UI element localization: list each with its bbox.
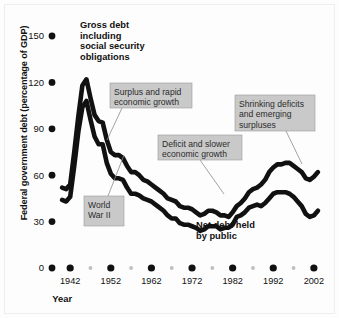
- annotation-line: including: [80, 31, 122, 41]
- callout-line: surpluses: [239, 120, 276, 130]
- x-tick-dot-minor: [129, 266, 133, 270]
- annotation-line: by public: [196, 231, 237, 241]
- callout-leader-shrinking-deficits: [286, 131, 302, 164]
- x-tick-dot-minor: [170, 266, 174, 270]
- callout-line: Surplus and rapid: [114, 87, 182, 97]
- y-tick-label: 120: [28, 77, 44, 88]
- callout-line: and emerging: [239, 109, 292, 119]
- y-tick-label: 0: [39, 262, 44, 273]
- callout-deficit-slower-growth: Deficit and slowereconomic growth: [158, 135, 242, 160]
- y-tick-dot: [49, 172, 56, 179]
- y-tick-label: 90: [33, 123, 44, 134]
- x-tick-dot: [188, 264, 195, 271]
- y-tick-label: 150: [28, 30, 44, 41]
- x-tick-label: 1942: [60, 276, 80, 286]
- x-tick-dot-minor: [210, 266, 214, 270]
- x-tick-label: 2002: [304, 276, 324, 286]
- callout-surplus-rapid-growth: Surplus and rapideconomic growth: [110, 83, 192, 108]
- callout-world-war-ii: WorldWar II: [84, 196, 124, 226]
- x-tick-dot: [229, 264, 236, 271]
- x-tick-dot: [107, 264, 114, 271]
- x-tick-dot-minor: [251, 266, 255, 270]
- callout-line: Deficit and slower: [162, 139, 230, 149]
- y-tick-label: 60: [33, 170, 44, 181]
- callout-shrinking-deficits: Shrinking deficitsand emergingsurpluses: [235, 95, 315, 131]
- callout-leader-deficit-slower-growth: [200, 160, 224, 194]
- chart-figure: Federal government debt (percentage of G…: [0, 0, 339, 318]
- annotation-line: obligations: [80, 52, 130, 62]
- y-tick-dot: [49, 265, 56, 272]
- callout-line: economic growth: [114, 97, 179, 107]
- y-tick-label: 30: [33, 216, 44, 227]
- callout-line: Shrinking deficits: [239, 99, 304, 109]
- callout-line: economic growth: [162, 149, 227, 159]
- annotation-net-debt-title: Net debt heldby public: [196, 220, 255, 241]
- y-tick-dot: [49, 79, 56, 86]
- x-tick-label: 1992: [263, 276, 283, 286]
- x-tick-dot: [148, 264, 155, 271]
- callout-leader-surplus-rapid-growth: [107, 108, 122, 140]
- x-tick-dot-minor: [89, 266, 93, 270]
- annotation-line: Gross debt: [80, 20, 129, 30]
- y-tick-dot: [49, 33, 56, 40]
- y-tick-dot: [49, 125, 56, 132]
- callout-line: World: [88, 200, 111, 210]
- x-tick-label: 1972: [182, 276, 202, 286]
- x-tick-label: 1952: [101, 276, 121, 286]
- callout-line: War II: [88, 210, 111, 220]
- y-tick-dot: [49, 218, 56, 225]
- x-tick-dot-minor: [292, 266, 296, 270]
- x-axis-label: Year: [52, 293, 72, 304]
- x-tick-label: 1962: [141, 276, 161, 286]
- annotation-line: social security: [80, 41, 145, 51]
- chart-plot-area: 0306090120150194219521962197219821992200…: [0, 0, 339, 318]
- annotation-line: Net debt held: [196, 220, 255, 230]
- x-tick-dot: [270, 264, 277, 271]
- x-tick-label: 1982: [222, 276, 242, 286]
- annotation-gross-debt-title: Gross debtincludingsocial securityobliga…: [80, 20, 145, 62]
- x-tick-dot: [67, 264, 74, 271]
- x-tick-dot: [310, 264, 317, 271]
